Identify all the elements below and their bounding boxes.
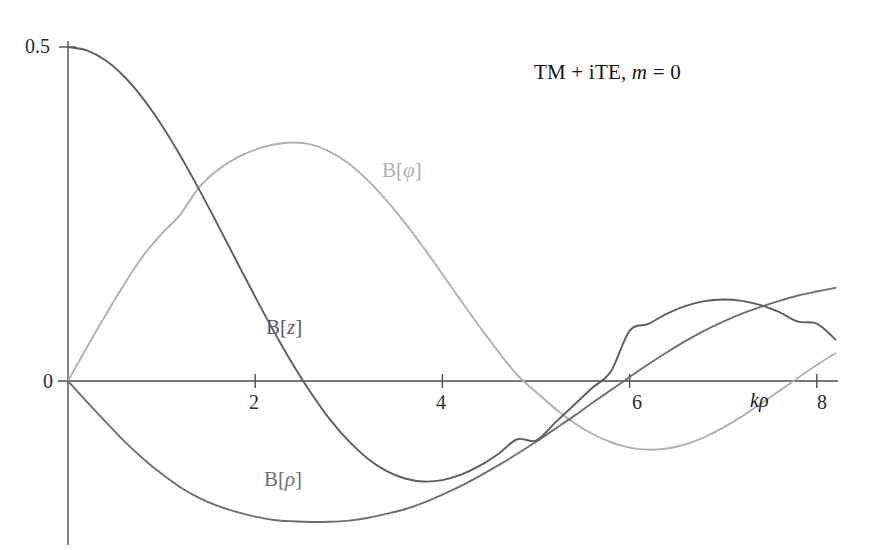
x-axis-title-k: k: [750, 389, 759, 411]
chart-title-symbol: m: [632, 60, 647, 84]
series-label-b-phi-open: B[: [382, 158, 403, 182]
x-axis-title-rho: ρ: [759, 389, 769, 411]
x-tick-label-2: 2: [249, 392, 259, 412]
chart-title-prefix: TM + iTE,: [534, 60, 626, 84]
x-tick-label-6: 6: [632, 392, 642, 412]
x-tick-label-8: 8: [817, 392, 827, 412]
x-tick-label-4: 4: [436, 392, 446, 412]
series-label-b-rho-open: B[: [264, 467, 285, 491]
series-label-b-z-close: ]: [295, 315, 302, 339]
series-label-b-z: B[z]: [266, 317, 302, 338]
chart-figure: TM + iTE, m = 0 0.5 0 2 4 6 8 kρ B[φ] B[…: [0, 0, 873, 550]
series-label-b-z-open: B[: [266, 315, 287, 339]
axes-group: [58, 41, 838, 545]
chart-title: TM + iTE, m = 0: [534, 62, 681, 83]
series-label-b-rho-symbol: ρ: [285, 467, 295, 491]
y-tick-label-0: 0: [43, 371, 53, 391]
series-label-b-rho: B[ρ]: [264, 469, 302, 490]
series-label-b-phi: B[φ]: [382, 160, 422, 181]
series-label-b-phi-symbol: φ: [403, 158, 415, 182]
chart-title-equals: = 0: [653, 60, 681, 84]
x-axis-title: kρ: [750, 390, 769, 410]
y-tick-label-0-5: 0.5: [25, 36, 50, 56]
series-curve-ρ: [68, 288, 836, 522]
plot-canvas: [0, 0, 873, 550]
data-series-group: [68, 47, 836, 522]
series-label-b-rho-close: ]: [295, 467, 302, 491]
series-label-b-z-symbol: z: [287, 315, 295, 339]
series-curve-z: [68, 47, 836, 482]
series-label-b-phi-close: ]: [415, 158, 422, 182]
series-curve-φ: [68, 143, 836, 450]
